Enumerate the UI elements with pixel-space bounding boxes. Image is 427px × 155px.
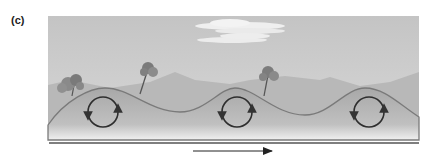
terrain-wave (48, 88, 419, 140)
wave-circulation-diagram (0, 0, 427, 155)
